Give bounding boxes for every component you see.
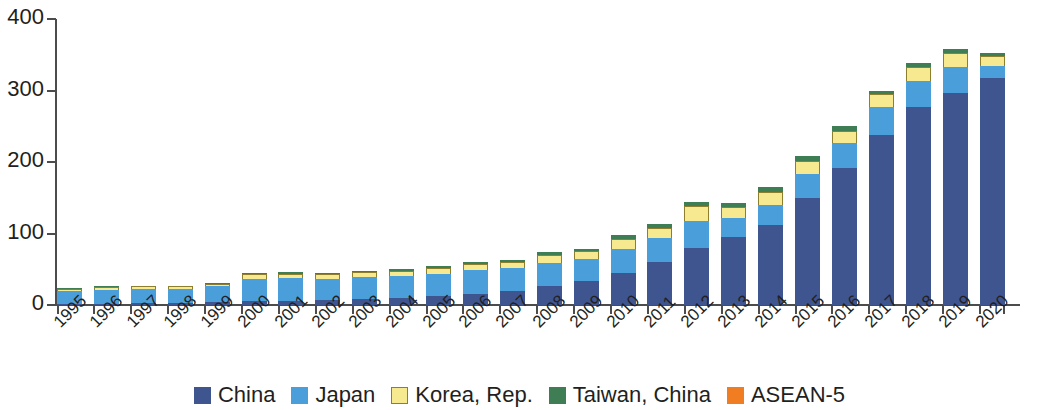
stacked-bar-chart: 4003002001000 19951996199719981999200020…	[0, 0, 1039, 410]
bar-segment-korea	[869, 94, 894, 107]
bar-segment-china	[980, 78, 1005, 305]
y-axis-tick	[47, 18, 56, 20]
y-axis-tick	[47, 304, 56, 306]
bar-segment-japan	[537, 263, 562, 287]
bar-segment-china	[869, 135, 894, 305]
bar-2017	[869, 91, 894, 305]
legend-label: ASEAN-5	[751, 382, 845, 408]
bar-segment-korea	[537, 255, 562, 263]
bar-segment-korea	[721, 207, 746, 218]
chart-legend: ChinaJapanKorea, Rep.Taiwan, ChinaASEAN-…	[0, 382, 1039, 408]
y-axis-tick-label: 200	[0, 147, 44, 173]
bar-2016	[832, 126, 857, 305]
y-axis-tick	[47, 161, 56, 163]
y-axis-tick-label: 0	[0, 290, 44, 316]
legend-item-korea[interactable]: Korea, Rep.	[391, 382, 532, 408]
bar-segment-korea	[832, 131, 857, 144]
bar-segment-japan	[721, 218, 746, 237]
bar-segment-korea	[758, 192, 783, 205]
bar-segment-japan	[906, 81, 931, 107]
plot-area	[57, 19, 1020, 305]
china-color-swatch-icon	[194, 387, 211, 404]
bar-2018	[906, 63, 931, 305]
bar-2020	[980, 53, 1005, 305]
bar-segment-korea	[980, 56, 1005, 66]
legend-item-china[interactable]: China	[194, 382, 275, 408]
legend-label: Taiwan, China	[573, 382, 711, 408]
bar-segment-china	[832, 168, 857, 305]
bar-segment-japan	[980, 66, 1005, 77]
bar-2014	[758, 187, 783, 305]
bar-2019	[943, 49, 968, 305]
legend-label: Japan	[315, 382, 375, 408]
bar-segment-japan	[684, 221, 709, 248]
asean-color-swatch-icon	[727, 387, 744, 404]
bar-segment-korea	[574, 251, 599, 258]
bar-segment-japan	[832, 143, 857, 168]
bar-segment-korea	[647, 228, 672, 238]
bar-segment-japan	[943, 67, 968, 93]
bar-segment-korea	[611, 239, 636, 249]
y-axis-tick	[47, 233, 56, 235]
bar-segment-japan	[500, 268, 525, 291]
bar-segment-japan	[574, 259, 599, 281]
bar-segment-korea	[795, 161, 820, 175]
bar-2015	[795, 156, 820, 305]
bar-segment-japan	[463, 270, 488, 294]
bar-2011	[647, 224, 672, 305]
bar-segment-japan	[758, 205, 783, 225]
bar-2013	[721, 203, 746, 305]
bar-segment-japan	[647, 238, 672, 262]
korea-color-swatch-icon	[391, 387, 408, 404]
taiwan-color-swatch-icon	[549, 387, 566, 404]
japan-color-swatch-icon	[291, 387, 308, 404]
bar-segment-china	[795, 198, 820, 305]
legend-label: Korea, Rep.	[415, 382, 532, 408]
legend-item-asean[interactable]: ASEAN-5	[727, 382, 845, 408]
legend-item-taiwan[interactable]: Taiwan, China	[549, 382, 711, 408]
bar-segment-japan	[869, 107, 894, 135]
bar-segment-korea	[684, 206, 709, 220]
bar-2012	[684, 202, 709, 305]
y-axis-tick	[47, 90, 56, 92]
bar-segment-japan	[611, 249, 636, 273]
bar-segment-korea	[943, 53, 968, 67]
y-axis-tick-label: 300	[0, 76, 44, 102]
bar-segment-china	[943, 93, 968, 305]
y-axis-tick-label: 400	[0, 4, 44, 30]
bar-segment-korea	[906, 67, 931, 81]
legend-item-japan[interactable]: Japan	[291, 382, 375, 408]
y-axis-tick-label: 100	[0, 219, 44, 245]
bar-segment-japan	[795, 174, 820, 198]
bar-segment-china	[906, 107, 931, 305]
legend-label: China	[218, 382, 275, 408]
